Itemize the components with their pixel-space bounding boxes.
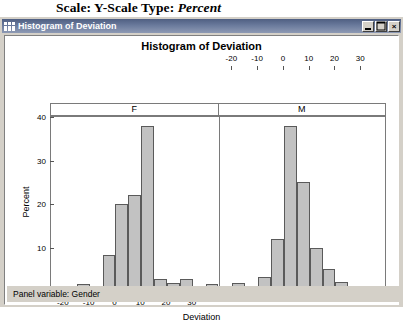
y-axis-tick-label: 20 — [37, 200, 46, 209]
plot-area — [50, 116, 386, 292]
top-axis-tick — [334, 66, 335, 70]
top-axis-tick-label: 30 — [356, 54, 365, 63]
window-titlebar[interactable]: Histogram of Deviation × — [2, 19, 401, 33]
panel-variable-footer: Panel variable: Gender — [7, 286, 402, 302]
histogram-bar — [141, 126, 154, 291]
top-axis-tick-label: 0 — [281, 54, 285, 63]
y-axis-tick — [50, 161, 54, 162]
top-axis-tick — [257, 66, 258, 70]
panel-header-f: F — [50, 103, 219, 116]
panel-label-m: M — [298, 104, 306, 114]
top-axis-tick-label: 10 — [304, 54, 313, 63]
top-axis-m-panel: -20-100102030 — [5, 54, 398, 76]
application-window: Histogram of Deviation × Histogram of De… — [0, 17, 403, 307]
top-axis-tick — [360, 66, 361, 70]
top-axis-tick — [283, 66, 284, 70]
top-axis-tick — [231, 66, 232, 70]
histogram-bar — [128, 195, 141, 291]
top-axis-tick-label: -20 — [226, 54, 238, 63]
window-controls: × — [362, 21, 400, 32]
y-axis-tick — [50, 248, 54, 249]
maximize-icon[interactable] — [375, 21, 387, 32]
histogram-bar — [271, 239, 284, 291]
panel-divider — [219, 117, 220, 291]
caption-prefix: Scale: Y-Scale Type: — [56, 0, 174, 15]
histogram-bar — [284, 126, 297, 291]
y-axis-tick — [50, 117, 54, 118]
top-axis-tick — [309, 66, 310, 70]
y-axis-tick — [50, 204, 54, 205]
figure-caption: Scale: Y-Scale Type: Percent — [0, 0, 403, 17]
top-axis-tick-label: 20 — [330, 54, 339, 63]
minimize-icon[interactable] — [362, 21, 374, 32]
window-title: Histogram of Deviation — [18, 21, 362, 32]
caption-emphasis: Percent — [178, 0, 221, 15]
panel-header-m: M — [218, 103, 387, 116]
histogram-bar — [297, 182, 310, 291]
y-axis-tick-label: 30 — [37, 156, 46, 165]
chart-title: Histogram of Deviation — [5, 40, 398, 52]
window-client-area: Histogram of Deviation -20-100102030 F M… — [4, 35, 399, 305]
histogram-bar — [310, 248, 323, 292]
graph-canvas: Histogram of Deviation -20-100102030 F M… — [5, 36, 398, 284]
y-axis-label: Percent — [21, 174, 31, 230]
panel-label-f: F — [132, 104, 138, 114]
top-axis-tick-label: -10 — [251, 54, 263, 63]
histogram-bar — [115, 204, 128, 291]
x-axis-label: Deviation — [5, 312, 398, 322]
close-icon[interactable]: × — [388, 21, 400, 32]
y-axis-tick-label: 10 — [37, 243, 46, 252]
histogram-window-icon — [4, 21, 15, 31]
y-axis-tick-label: 40 — [37, 113, 46, 122]
